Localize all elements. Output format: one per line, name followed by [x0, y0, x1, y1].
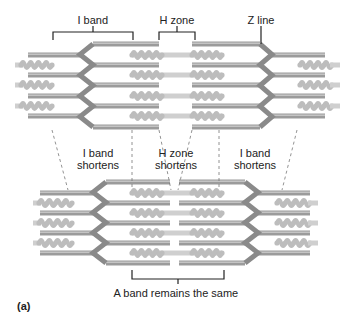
myosin-head [152, 210, 157, 215]
myosin-head [212, 210, 217, 215]
thin-filament-highlight [28, 115, 80, 117]
thin-filament-highlight [192, 64, 260, 66]
myosin-head [129, 250, 134, 255]
myosin-head [18, 62, 23, 67]
myosin-head [291, 220, 296, 225]
myosin-head [212, 52, 217, 57]
myosin-head [297, 62, 302, 67]
myosin-head [61, 200, 66, 205]
myosin-head [34, 82, 39, 87]
label-line-1: I band [220, 147, 290, 159]
myosin-head [69, 200, 74, 205]
thin-filament-highlight [258, 252, 310, 254]
myosin-head [159, 250, 164, 255]
myosin-head [45, 200, 50, 205]
a-band-remains-same-label: A band remains the same [114, 287, 239, 299]
thin-filament-highlight [93, 84, 159, 86]
myosin-head [159, 72, 164, 77]
thin-filament-highlight [179, 202, 245, 204]
myosin-head [297, 82, 302, 87]
myosin-head [137, 250, 142, 255]
label-line-1: I band [63, 147, 133, 159]
myosin-head [197, 230, 202, 235]
h-zone-shortens-label: H zone shortens [141, 147, 211, 171]
thin-filament-highlight [258, 192, 310, 194]
myosin-head [42, 62, 47, 67]
thin-filament-highlight [192, 43, 260, 45]
myosin-head [204, 210, 209, 215]
myosin-head [321, 103, 326, 108]
myosin-head [197, 113, 202, 118]
myosin-head [189, 190, 194, 195]
thin-filament-highlight [106, 202, 170, 204]
myosin-head [305, 62, 310, 67]
thin-filament-highlight [258, 212, 310, 214]
myosin-head [137, 52, 142, 57]
myosin-head [204, 52, 209, 57]
sarcomere-contraction-diagram: I band H zone Z line I band shortens H z… [0, 0, 350, 325]
myosin-head [42, 103, 47, 108]
myosin-head [197, 52, 202, 57]
i-band-label: I band [78, 14, 109, 26]
h-zone-bracket [159, 32, 195, 40]
myosin-head [34, 62, 39, 67]
myosin-head [129, 190, 134, 195]
myosin-head [137, 113, 142, 118]
myosin-head [212, 230, 217, 235]
myosin-head [159, 230, 164, 235]
myosin-head [321, 62, 326, 67]
i-band-bracket [53, 32, 133, 40]
myosin-head [144, 93, 149, 98]
myosin-head [42, 82, 47, 87]
myosin-head [212, 93, 217, 98]
myosin-head [297, 103, 302, 108]
label-line-1: H zone [141, 147, 211, 159]
myosin-head [69, 220, 74, 225]
i-band-shortens-left-label: I band shortens [63, 147, 133, 171]
myosin-head [69, 240, 74, 245]
myosin-head [219, 52, 224, 57]
myosin-head [144, 52, 149, 57]
thin-filament-highlight [179, 262, 245, 264]
myosin-head [53, 220, 58, 225]
h-zone-label: H zone [160, 14, 195, 26]
myosin-head [26, 82, 31, 87]
label-line-2: shortens [63, 159, 133, 171]
thin-filament-highlight [93, 64, 159, 66]
myosin-head [36, 240, 41, 245]
myosin-head [53, 200, 58, 205]
panel-label: (a) [17, 300, 30, 312]
myosin-head [219, 93, 224, 98]
thin-filament-highlight [40, 232, 93, 234]
myosin-head [152, 72, 157, 77]
myosin-head [321, 82, 326, 87]
myosin-head [212, 72, 217, 77]
myosin-head [204, 113, 209, 118]
thin-filament-highlight [28, 74, 80, 76]
myosin-head [305, 103, 310, 108]
thin-filament-highlight [40, 252, 93, 254]
thick-filament-stub [308, 221, 318, 226]
myosin-head [189, 52, 194, 57]
label-line-2: shortens [141, 159, 211, 171]
myosin-head [152, 113, 157, 118]
thin-filament-highlight [106, 242, 170, 244]
thin-filament-highlight [192, 105, 260, 107]
thin-filament-highlight [40, 192, 93, 194]
myosin-head [152, 190, 157, 195]
myosin-head [53, 240, 58, 245]
myosin-head [219, 210, 224, 215]
myosin-head [299, 200, 304, 205]
myosin-head [152, 230, 157, 235]
myosin-head [129, 72, 134, 77]
z-line-label: Z line [248, 14, 275, 26]
myosin-head [197, 93, 202, 98]
myosin-head [189, 210, 194, 215]
myosin-head [34, 103, 39, 108]
myosin-head [159, 93, 164, 98]
myosin-head [18, 82, 23, 87]
myosin-head [204, 230, 209, 235]
myosin-head [283, 220, 288, 225]
label-line-2: shortens [220, 159, 290, 171]
myosin-head [219, 113, 224, 118]
